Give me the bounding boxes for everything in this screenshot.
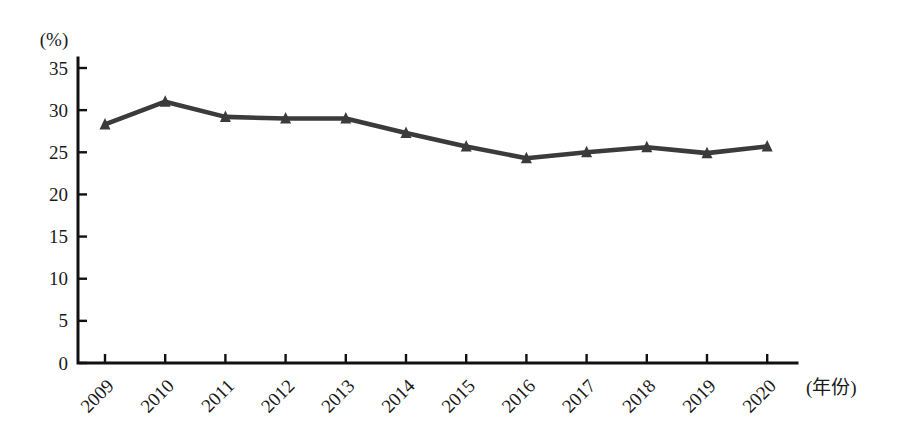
axis-lines (78, 58, 797, 363)
x-tick-label: 2012 (257, 375, 299, 417)
x-tick-label: 2018 (618, 375, 660, 417)
y-tick-label: 10 (49, 268, 68, 289)
x-tick-label: 2017 (558, 375, 600, 417)
chart-canvas: 0510152025303520092010201120122013201420… (0, 0, 897, 443)
x-tick-label: 2016 (498, 375, 540, 417)
x-tick-label: 2019 (678, 375, 720, 417)
x-tick-label: 2010 (136, 375, 178, 417)
x-tick-label: 2009 (76, 375, 118, 417)
x-tick-label: 2020 (738, 375, 780, 417)
x-tick-label: 2011 (197, 375, 238, 416)
chart-plot-area: 0510152025303520092010201120122013201420… (49, 58, 797, 417)
data-line (105, 102, 767, 158)
y-tick-label: 35 (49, 58, 68, 79)
y-axis-unit-label: (%) (40, 29, 68, 51)
y-tick-label: 30 (49, 100, 68, 121)
y-tick-label: 20 (49, 184, 68, 205)
y-tick-label: 5 (59, 310, 69, 331)
x-axis-unit-label: (年份) (806, 377, 857, 399)
x-tick-label: 2013 (317, 375, 359, 417)
y-tick-label: 15 (49, 226, 68, 247)
line-chart-figure: 0510152025303520092010201120122013201420… (0, 0, 897, 443)
x-tick-label: 2015 (437, 375, 479, 417)
y-tick-label: 0 (59, 353, 69, 374)
chart-page: 0510152025303520092010201120122013201420… (0, 0, 897, 443)
x-tick-label: 2014 (377, 375, 419, 417)
y-tick-label: 25 (49, 142, 68, 163)
